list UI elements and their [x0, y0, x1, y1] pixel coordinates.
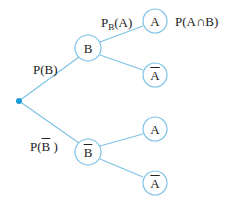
node-abar1-label: A: [142, 69, 168, 82]
node-a1-label: A: [142, 15, 168, 28]
node-b-label: B: [75, 42, 101, 55]
label-p-bbar-var: B: [42, 139, 51, 154]
edge-bbar-abar: [100, 159, 143, 177]
node-a2-label: A: [142, 123, 168, 136]
edge-b-abar: [100, 55, 143, 70]
label-p-bbar: P(B ): [30, 140, 58, 153]
label-p-b: P(B): [33, 63, 58, 76]
edge-root-bbar: [19, 101, 79, 143]
node-abar2-label: A: [142, 177, 168, 190]
root-dot: [16, 98, 22, 104]
node-bbar-label: B: [75, 146, 101, 159]
label-pb-a-arg: (A): [114, 15, 132, 30]
label-pb-a: PB(A): [101, 16, 132, 32]
edge-bbar-a: [100, 134, 143, 146]
label-p-bbar-suffix: ): [50, 139, 58, 154]
label-p-a-and-b: P(A∩B): [175, 15, 218, 28]
label-p-bbar-prefix: P(: [30, 139, 42, 154]
